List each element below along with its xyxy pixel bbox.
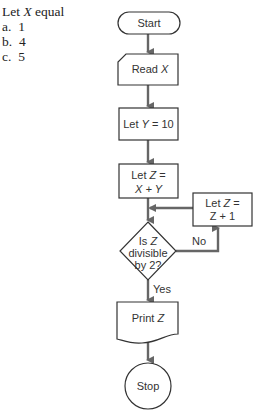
svg-text:Let Y = 10: Let Y = 10 xyxy=(123,118,173,130)
svg-text:Let Z =: Let Z = xyxy=(131,169,166,181)
svg-text:Z + 1: Z + 1 xyxy=(210,210,235,222)
svg-text:Let Z =: Let Z = xyxy=(205,197,240,209)
svg-text:No: No xyxy=(192,235,206,247)
svg-text:Stop: Stop xyxy=(137,380,160,392)
svg-text:Is Z: Is Z xyxy=(139,235,159,247)
svg-text:by 2?: by 2? xyxy=(135,259,162,271)
svg-text:X + Y: X + Y xyxy=(134,183,163,195)
svg-text:Yes: Yes xyxy=(153,283,171,295)
svg-text:divisible: divisible xyxy=(128,247,167,259)
svg-text:Print Z: Print Z xyxy=(132,312,166,324)
flowchart: Start Read X Let Y = 10 Let Z = X + Y Is… xyxy=(0,0,254,412)
svg-text:Start: Start xyxy=(137,17,160,29)
svg-text:Read X: Read X xyxy=(132,63,169,75)
